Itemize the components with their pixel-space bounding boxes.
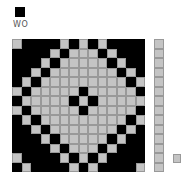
grid-cell[interactable]	[31, 87, 41, 97]
grid-cell[interactable]	[41, 58, 51, 68]
grid-cell[interactable]	[88, 106, 98, 116]
grid-cell[interactable]	[50, 125, 60, 135]
grid-cell[interactable]	[79, 87, 89, 97]
grid-cell[interactable]	[31, 153, 41, 163]
grid-cell[interactable]	[41, 125, 51, 135]
grid-cell[interactable]	[98, 68, 108, 78]
grid-cell[interactable]	[31, 58, 41, 68]
grid-cell[interactable]	[31, 125, 41, 135]
grid-cell[interactable]	[126, 115, 136, 125]
grid-cell[interactable]	[69, 106, 79, 116]
grid-cell[interactable]	[107, 153, 117, 163]
grid-cell[interactable]	[69, 49, 79, 59]
grid-cell[interactable]	[126, 77, 136, 87]
grid-cell[interactable]	[22, 39, 32, 49]
side-cell[interactable]	[154, 125, 164, 135]
grid-cell[interactable]	[69, 134, 79, 144]
grid-cell[interactable]	[69, 125, 79, 135]
grid-cell[interactable]	[136, 39, 146, 49]
grid-cell[interactable]	[50, 68, 60, 78]
grid-cell[interactable]	[22, 144, 32, 154]
grid-cell[interactable]	[79, 153, 89, 163]
grid-cell[interactable]	[126, 106, 136, 116]
grid-cell[interactable]	[117, 49, 127, 59]
grid-cell[interactable]	[12, 49, 22, 59]
grid-cell[interactable]	[22, 106, 32, 116]
grid-cell[interactable]	[98, 96, 108, 106]
grid-cell[interactable]	[31, 163, 41, 173]
side-column[interactable]	[154, 39, 164, 172]
grid-cell[interactable]	[136, 134, 146, 144]
grid-cell[interactable]	[22, 153, 32, 163]
grid-cell[interactable]	[69, 87, 79, 97]
grid-cell[interactable]	[60, 106, 70, 116]
grid-cell[interactable]	[107, 39, 117, 49]
grid-cell[interactable]	[22, 134, 32, 144]
grid-cell[interactable]	[69, 115, 79, 125]
grid-cell[interactable]	[79, 125, 89, 135]
grid-cell[interactable]	[12, 163, 22, 173]
grid-cell[interactable]	[69, 39, 79, 49]
grid-cell[interactable]	[98, 87, 108, 97]
grid-cell[interactable]	[41, 49, 51, 59]
side-cell[interactable]	[154, 96, 164, 106]
grid-cell[interactable]	[136, 163, 146, 173]
grid-cell[interactable]	[41, 106, 51, 116]
grid-cell[interactable]	[136, 77, 146, 87]
grid-cell[interactable]	[117, 77, 127, 87]
grid-cell[interactable]	[12, 68, 22, 78]
grid-cell[interactable]	[60, 77, 70, 87]
grid-cell[interactable]	[41, 134, 51, 144]
grid-cell[interactable]	[107, 68, 117, 78]
grid-cell[interactable]	[117, 153, 127, 163]
grid-cell[interactable]	[107, 106, 117, 116]
grid-cell[interactable]	[88, 58, 98, 68]
grid-cell[interactable]	[41, 68, 51, 78]
side-cell[interactable]	[154, 68, 164, 78]
grid-cell[interactable]	[79, 68, 89, 78]
grid-cell[interactable]	[126, 39, 136, 49]
side-cell[interactable]	[154, 39, 164, 49]
grid-cell[interactable]	[50, 49, 60, 59]
grid-cell[interactable]	[50, 144, 60, 154]
side-cell[interactable]	[154, 115, 164, 125]
grid-cell[interactable]	[88, 96, 98, 106]
side-cell[interactable]	[154, 77, 164, 87]
grid-cell[interactable]	[126, 163, 136, 173]
grid-cell[interactable]	[31, 134, 41, 144]
side-cell[interactable]	[154, 58, 164, 68]
grid-cell[interactable]	[22, 163, 32, 173]
grid-cell[interactable]	[98, 106, 108, 116]
grid-cell[interactable]	[107, 144, 117, 154]
grid-cell[interactable]	[69, 58, 79, 68]
grid-cell[interactable]	[60, 144, 70, 154]
grid-cell[interactable]	[88, 134, 98, 144]
grid-cell[interactable]	[60, 96, 70, 106]
grid-cell[interactable]	[60, 68, 70, 78]
grid-cell[interactable]	[136, 68, 146, 78]
grid-cell[interactable]	[136, 144, 146, 154]
grid-cell[interactable]	[88, 153, 98, 163]
grid-cell[interactable]	[22, 125, 32, 135]
grid-cell[interactable]	[79, 144, 89, 154]
grid-cell[interactable]	[136, 153, 146, 163]
side-cell[interactable]	[154, 87, 164, 97]
grid-cell[interactable]	[136, 58, 146, 68]
grid-cell[interactable]	[60, 39, 70, 49]
grid-cell[interactable]	[126, 134, 136, 144]
grid-cell[interactable]	[98, 115, 108, 125]
grid-cell[interactable]	[126, 68, 136, 78]
grid-cell[interactable]	[88, 144, 98, 154]
grid-cell[interactable]	[60, 134, 70, 144]
side-cell[interactable]	[154, 134, 164, 144]
grid-cell[interactable]	[22, 58, 32, 68]
grid-cell[interactable]	[117, 106, 127, 116]
puzzle-grid[interactable]	[12, 39, 145, 172]
side-cell[interactable]	[154, 153, 164, 163]
grid-cell[interactable]	[98, 125, 108, 135]
grid-cell[interactable]	[60, 125, 70, 135]
grid-cell[interactable]	[98, 144, 108, 154]
grid-cell[interactable]	[69, 153, 79, 163]
grid-cell[interactable]	[69, 163, 79, 173]
grid-cell[interactable]	[88, 68, 98, 78]
